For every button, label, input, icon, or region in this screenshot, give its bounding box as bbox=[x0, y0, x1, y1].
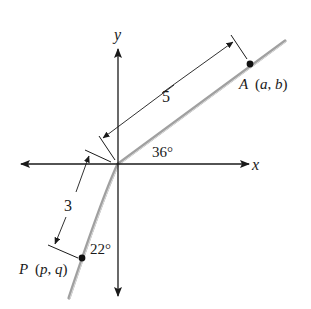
dimension-3-label: 3 bbox=[64, 197, 72, 214]
coordinate-diagram: y x 5 3 36° 22° A (a, b) P (p, q) bbox=[0, 0, 311, 309]
dimension-5-tick-a bbox=[231, 35, 247, 59]
point-a-label: A (a, b) bbox=[238, 76, 287, 93]
point-a-marker bbox=[247, 61, 254, 68]
ray-to-p bbox=[69, 164, 119, 298]
y-axis-label: y bbox=[112, 26, 122, 44]
point-p-label: P (p, q) bbox=[18, 261, 67, 278]
diagram-svg: y x 5 3 36° 22° A (a, b) P (p, q) bbox=[0, 0, 311, 309]
ray-to-a bbox=[118, 41, 286, 165]
point-p-marker bbox=[79, 255, 86, 262]
point-p-name: P bbox=[18, 261, 28, 277]
x-axis-label: x bbox=[251, 156, 259, 173]
dimension-5 bbox=[99, 35, 247, 160]
point-a-x-var: a bbox=[260, 76, 268, 92]
dimension-5-label: 5 bbox=[162, 88, 170, 105]
point-a-name: A bbox=[238, 76, 249, 92]
dimension-3-tick-p bbox=[48, 245, 78, 258]
angle-22-label: 22° bbox=[90, 241, 111, 257]
dimension-5-tick-origin bbox=[99, 136, 115, 160]
angle-36-label: 36° bbox=[152, 144, 173, 160]
